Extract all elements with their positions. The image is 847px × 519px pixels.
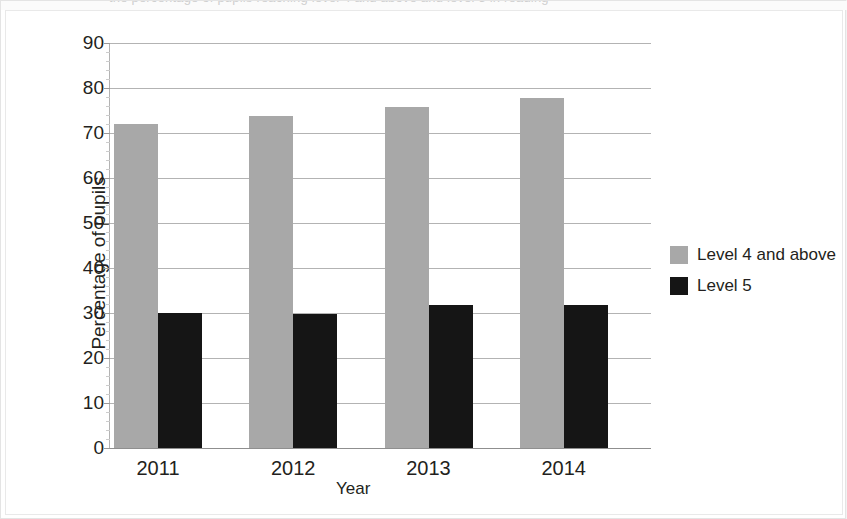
x-axis-title: Year [336, 479, 370, 499]
bar-2014-series-0[interactable] [520, 98, 564, 448]
chart-legend: Level 4 and aboveLevel 5 [670, 245, 836, 307]
x-tick-label-2014: 2014 [542, 457, 587, 480]
y-tick-0 [104, 448, 110, 449]
gridline-60 [110, 178, 651, 179]
y-minor-tick [106, 349, 110, 350]
y-tick-label-80: 80 [83, 77, 104, 99]
gridline-70 [110, 133, 651, 134]
gridline-0 [110, 448, 651, 449]
bar-2011-series-0[interactable] [114, 124, 158, 448]
y-minor-tick [106, 241, 110, 242]
y-minor-tick [106, 169, 110, 170]
y-minor-tick [106, 79, 110, 80]
clipped-caption-strip: the percentage of pupils reaching level … [1, 1, 847, 10]
y-tick-label-20: 20 [83, 347, 104, 369]
y-tick-label-40: 40 [83, 257, 104, 279]
y-tick-label-30: 30 [83, 302, 104, 324]
y-minor-tick [106, 421, 110, 422]
bar-2013-series-1[interactable] [429, 305, 473, 448]
y-tick-80 [104, 88, 110, 89]
y-minor-tick [106, 124, 110, 125]
y-minor-tick [106, 232, 110, 233]
chart-frame: Percentage of pupils 0102030405060708090… [5, 10, 843, 515]
y-tick-40 [104, 268, 110, 269]
y-tick-60 [104, 178, 110, 179]
y-minor-tick [106, 151, 110, 152]
y-minor-tick [106, 277, 110, 278]
y-minor-tick [106, 52, 110, 53]
bar-2013-series-0[interactable] [385, 107, 429, 448]
x-tick-label-2011: 2011 [136, 457, 179, 480]
y-tick-label-0: 0 [93, 437, 104, 459]
y-minor-tick [106, 430, 110, 431]
legend-item-0[interactable]: Level 4 and above [670, 245, 836, 265]
y-minor-tick [106, 295, 110, 296]
y-minor-tick [106, 394, 110, 395]
y-minor-tick [106, 97, 110, 98]
y-minor-tick [106, 367, 110, 368]
y-tick-50 [104, 223, 110, 224]
y-minor-tick [106, 70, 110, 71]
y-tick-20 [104, 358, 110, 359]
y-minor-tick [106, 160, 110, 161]
y-tick-10 [104, 403, 110, 404]
bar-2012-series-0[interactable] [249, 116, 293, 448]
value-axis-line [109, 43, 110, 449]
y-minor-tick [106, 331, 110, 332]
legend-label: Level 5 [697, 276, 752, 296]
y-minor-tick [106, 376, 110, 377]
y-minor-tick [106, 142, 110, 143]
y-tick-label-70: 70 [83, 122, 104, 144]
y-minor-tick [106, 250, 110, 251]
y-minor-tick [106, 205, 110, 206]
y-minor-tick [106, 340, 110, 341]
y-minor-tick [106, 259, 110, 260]
gridline-40 [110, 268, 651, 269]
y-minor-tick [106, 196, 110, 197]
legend-label: Level 4 and above [697, 245, 836, 265]
y-minor-tick [106, 106, 110, 107]
gridline-50 [110, 223, 651, 224]
gridline-80 [110, 88, 651, 89]
y-minor-tick [106, 61, 110, 62]
y-minor-tick [106, 439, 110, 440]
y-minor-tick [106, 214, 110, 215]
legend-swatch-icon [670, 277, 688, 295]
y-minor-tick [106, 322, 110, 323]
clipped-caption-text: the percentage of pupils reaching level … [109, 1, 549, 5]
y-tick-label-50: 50 [83, 212, 104, 234]
x-tick-label-2013: 2013 [406, 457, 451, 480]
legend-item-1[interactable]: Level 5 [670, 276, 836, 296]
y-minor-tick [106, 385, 110, 386]
bar-2014-series-1[interactable] [564, 305, 608, 448]
y-tick-90 [104, 43, 110, 44]
y-minor-tick [106, 115, 110, 116]
y-tick-label-10: 10 [83, 392, 104, 414]
y-minor-tick [106, 412, 110, 413]
plot-area [110, 43, 651, 448]
y-tick-label-60: 60 [83, 167, 104, 189]
x-tick-label-2012: 2012 [271, 457, 316, 480]
y-minor-tick [106, 304, 110, 305]
y-minor-tick [106, 187, 110, 188]
y-tick-30 [104, 313, 110, 314]
bar-2011-series-1[interactable] [158, 313, 202, 448]
legend-swatch-icon [670, 246, 688, 264]
y-tick-label-90: 90 [83, 32, 104, 54]
y-tick-70 [104, 133, 110, 134]
y-minor-tick [106, 286, 110, 287]
bar-2012-series-1[interactable] [293, 314, 337, 448]
gridline-90 [110, 43, 651, 44]
